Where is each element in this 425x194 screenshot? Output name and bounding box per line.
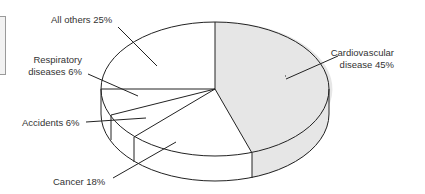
leader-accidents [86, 118, 146, 122]
label-cardio-line1: Cardiovascular [326, 47, 394, 59]
label-respiratory-line1: Respiratory [30, 54, 82, 66]
label-cancer: Cancer 18% [53, 176, 105, 188]
label-cardio-line2: disease 45% [326, 59, 394, 71]
label-accidents: Accidents 6% [22, 117, 80, 129]
pie-chart-3d [0, 0, 425, 194]
label-all-others: All others 25% [51, 14, 112, 26]
label-respiratory-line2: diseases 6% [20, 66, 82, 78]
leader-cancer [113, 142, 176, 178]
leader-respiratory [88, 74, 138, 96]
